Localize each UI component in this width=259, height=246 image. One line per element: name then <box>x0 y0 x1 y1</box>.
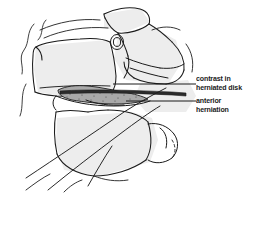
callout-contrast-line-2: herniated disk <box>196 84 242 93</box>
callout-contrast-in-herniated-disk: contrast in herniated disk <box>196 75 242 92</box>
callout-anterior-herniation: anterior herniation <box>196 97 229 114</box>
annotation-labels: contrast in herniated disk anterior hern… <box>0 0 259 246</box>
callout-anterior-line-2: herniation <box>196 106 229 115</box>
